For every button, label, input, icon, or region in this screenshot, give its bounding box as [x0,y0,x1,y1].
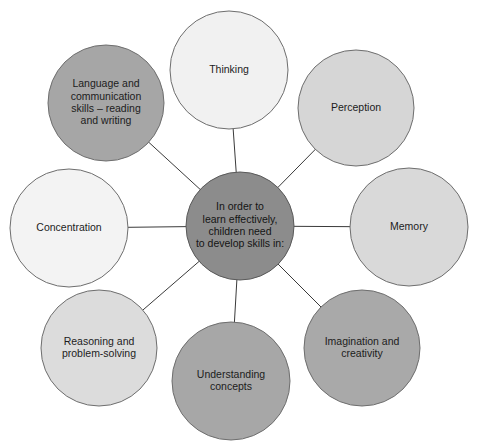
node-memory[interactable]: Memory [350,168,468,286]
spoke-line-thinking [233,128,236,173]
node-reasoning-and-problem-solving[interactable]: Reasoning andproblem-solving [41,290,157,406]
node-language-and-communication[interactable]: Language andcommunicationskills – readin… [48,45,164,161]
node-label-perception: Perception [331,101,381,113]
node-label-thinking: Thinking [209,63,249,75]
spoke-line-reasoning-and-problem-solving [142,261,200,311]
node-center-hub[interactable]: In order tolearn effectively,children ne… [186,172,294,280]
node-label-memory: Memory [390,220,429,232]
node-label-language-and-communication: communication [71,90,142,102]
spoke-line-concentration [127,227,187,228]
diagram-canvas: ThinkingPerceptionMemoryImagination andc… [0,0,480,443]
node-concentration[interactable]: Concentration [10,169,128,287]
concept-map-diagram: ThinkingPerceptionMemoryImagination andc… [0,0,480,443]
node-label-reasoning-and-problem-solving: problem-solving [62,347,136,359]
node-label-understanding-concepts: Understanding [197,368,265,380]
node-label-language-and-communication: and writing [81,114,132,126]
node-label-center-hub: children need [208,225,271,237]
node-label-center-hub: to develop skills in: [196,237,284,249]
node-label-language-and-communication: Language and [72,77,139,89]
node-understanding-concepts[interactable]: Understandingconcepts [172,322,290,440]
node-label-language-and-communication: skills – reading [71,102,141,114]
node-label-understanding-concepts: concepts [210,380,252,392]
node-thinking[interactable]: Thinking [170,11,288,129]
spoke-line-perception [277,149,316,189]
spoke-line-imagination-and-creativity [277,263,321,307]
spoke-line-understanding-concepts [234,279,237,323]
node-imagination-and-creativity[interactable]: Imagination andcreativity [304,290,420,406]
node-label-center-hub: learn effectively, [203,213,278,225]
center-node-group: In order tolearn effectively,children ne… [186,172,294,280]
node-label-center-hub: In order to [216,200,264,212]
node-perception[interactable]: Perception [298,50,414,166]
node-label-imagination-and-creativity: Imagination and [325,335,400,347]
node-label-concentration: Concentration [36,221,102,233]
node-label-reasoning-and-problem-solving: Reasoning and [64,335,135,347]
spoke-line-language-and-communication [148,142,201,191]
node-label-imagination-and-creativity: creativity [341,347,383,359]
